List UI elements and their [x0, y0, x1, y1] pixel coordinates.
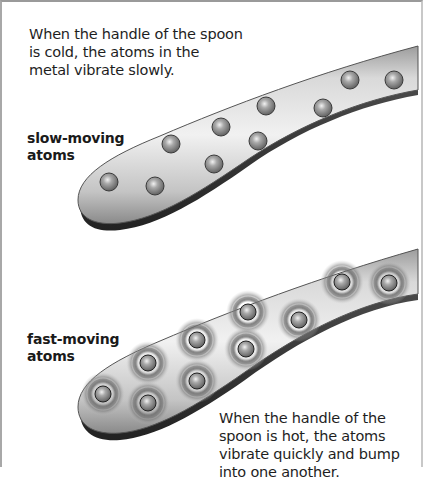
- slow-atom: [212, 118, 230, 136]
- fast-atom: [126, 341, 170, 385]
- slow-atom: [341, 71, 359, 89]
- fast-atom: [175, 359, 219, 403]
- fast-atom: [320, 260, 364, 304]
- slow-atom: [100, 173, 118, 191]
- slow-atom: [146, 177, 164, 195]
- fast-atom: [175, 318, 219, 362]
- fast-label-line2: atoms: [27, 348, 119, 365]
- slow-atom: [205, 155, 223, 173]
- fast-label-line1: fast-moving: [27, 331, 119, 348]
- slow-atom: [162, 135, 180, 153]
- cold-caption: When the handle of the spoon is cold, th…: [29, 25, 244, 79]
- slow-atom: [314, 99, 332, 117]
- fast-atom: [81, 372, 125, 416]
- slow-moving-atoms-label: slow-moving atoms: [27, 130, 124, 164]
- hot-caption: When the handle of the spoon is hot, the…: [219, 409, 419, 481]
- fast-atom: [367, 261, 411, 305]
- slow-atom: [249, 132, 267, 150]
- fast-atom: [126, 381, 170, 425]
- slow-atom: [257, 97, 275, 115]
- fast-atom: [277, 298, 321, 342]
- slow-label-line1: slow-moving: [27, 130, 124, 147]
- fast-moving-atoms-label: fast-moving atoms: [27, 331, 119, 365]
- fast-atom: [224, 327, 268, 371]
- slow-atom: [385, 71, 403, 89]
- slow-label-line2: atoms: [27, 147, 124, 164]
